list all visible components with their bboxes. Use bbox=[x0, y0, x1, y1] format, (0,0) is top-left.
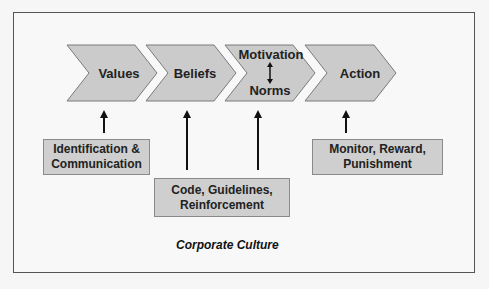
box-line: Monitor, Reward, bbox=[329, 142, 426, 157]
box-line: Code, Guidelines, bbox=[171, 183, 272, 198]
chevron-label-norms: Norms bbox=[240, 83, 300, 98]
box-code-guidelines-reinforcement: Code, Guidelines, Reinforcement bbox=[154, 178, 290, 217]
arrow-to-beliefs bbox=[183, 110, 191, 170]
chevron-label-action: Action bbox=[330, 66, 390, 81]
box-line: Reinforcement bbox=[180, 198, 264, 213]
box-line: Identification & bbox=[53, 142, 140, 157]
chevron-label-values: Values bbox=[89, 66, 149, 81]
arrow-to-action bbox=[342, 110, 350, 133]
chevron-label-beliefs: Beliefs bbox=[165, 66, 225, 81]
arrow-to-motivation-norms bbox=[254, 110, 262, 170]
chevron-label-motivation: Motivation bbox=[232, 47, 310, 62]
box-line: Communication bbox=[51, 157, 142, 172]
box-line: Punishment bbox=[343, 157, 412, 172]
diagram-caption: Corporate Culture bbox=[176, 238, 279, 252]
arrow-to-values bbox=[100, 110, 108, 133]
box-identification-communication: Identification & Communication bbox=[43, 139, 150, 175]
box-monitor-reward-punishment: Monitor, Reward, Punishment bbox=[312, 139, 443, 175]
